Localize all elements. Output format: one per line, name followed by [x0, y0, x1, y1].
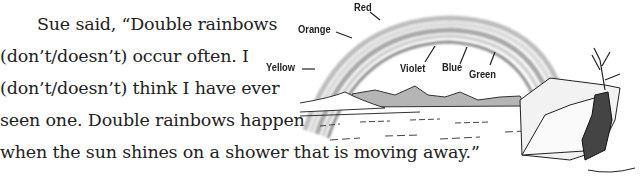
label-red: Red: [354, 1, 372, 13]
passage-line-2: (don’t/doesn’t) occur often. I: [0, 46, 249, 66]
label-violet: Violet: [400, 62, 425, 74]
passage-line-3: (don’t/doesn’t) think I have ever: [0, 78, 279, 98]
rainbow-landscape-icon: [295, 0, 641, 177]
passage-line-1: Sue said, “Double rainbows: [37, 14, 277, 34]
passage-line-4: seen one. Double rainbows happen: [0, 110, 305, 130]
rainbow-illustration: Red Orange Yellow Violet Blue Green: [295, 0, 641, 177]
label-blue: Blue: [442, 61, 462, 73]
label-yellow: Yellow: [266, 61, 295, 73]
label-green: Green: [469, 68, 496, 80]
label-orange: Orange: [298, 23, 331, 35]
